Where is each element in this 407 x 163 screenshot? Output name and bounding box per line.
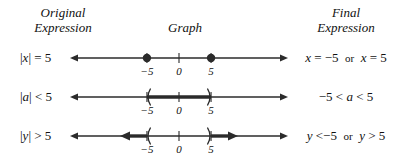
final-variable-left-1: x <box>305 50 311 65</box>
abs-bar-close-3: | <box>28 128 31 143</box>
final-variable-right-1: x <box>361 50 367 65</box>
number-line-graph-row-3: −505 <box>66 122 292 156</box>
final-relation-right-1: = 5 <box>370 50 387 65</box>
number-line-graph-row-1: −505 <box>66 44 292 78</box>
tick-label-1-2: 5 <box>199 65 223 77</box>
conjunction-3: or <box>343 130 352 142</box>
column-header-final-expression: Final Expression <box>290 5 402 35</box>
conjunction-1: or <box>345 52 354 64</box>
tick-label-2-2: 5 <box>199 104 223 116</box>
final-relation-right-3: > 5 <box>368 128 385 143</box>
number-line-graph-row-2: −505 <box>66 83 292 117</box>
final-rel-high-2: < <box>356 89 363 104</box>
final-high-2: 5 <box>367 89 374 104</box>
tick-label-3-1: 0 <box>167 143 191 155</box>
final-low-2: −5 <box>319 89 333 104</box>
abs-bar-close-2: | <box>29 89 32 104</box>
abs-bar-close-1: | <box>28 50 31 65</box>
final-variable-2: a <box>346 89 353 104</box>
tick-label-1-1: 0 <box>167 65 191 77</box>
column-header-original-line2: Expression <box>8 20 118 35</box>
final-variable-left-3: y <box>307 128 313 143</box>
final-relation-left-1: = −5 <box>314 50 338 65</box>
tick-label-3-0: −5 <box>135 143 159 155</box>
column-header-original-expression: Original Expression <box>8 5 118 35</box>
final-relation-left-3: <−5 <box>316 128 337 143</box>
final-variable-right-3: y <box>359 128 365 143</box>
column-header-original-line1: Original <box>8 5 118 20</box>
relation-3: > 5 <box>34 128 51 143</box>
final-expression-row-3: y <−5 or y > 5 <box>286 128 406 144</box>
column-header-graph: Graph <box>130 20 240 35</box>
relation-2: < 5 <box>35 89 52 104</box>
final-expression-row-1: x = −5 or x = 5 <box>286 50 406 66</box>
tick-label-3-2: 5 <box>199 143 223 155</box>
column-header-final-line2: Expression <box>290 20 402 35</box>
relation-1: = 5 <box>34 50 51 65</box>
tick-label-2-1: 0 <box>167 104 191 116</box>
final-rel-low-2: < <box>336 89 343 104</box>
final-expression-row-2: −5 < a < 5 <box>286 89 406 105</box>
tick-label-2-0: −5 <box>135 104 159 116</box>
column-header-final-line1: Final <box>290 5 402 20</box>
tick-label-1-0: −5 <box>135 65 159 77</box>
